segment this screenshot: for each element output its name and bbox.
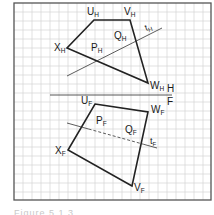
grid-paper [14,3,211,200]
grid-border [14,3,211,200]
label-x-h: XH [54,42,66,54]
svg-text:XH: XH [54,42,66,54]
fold-label-h: H [167,83,174,94]
svg-text:WF: WF [151,104,164,116]
diagram-canvas: H F UH VH WH XH PH QH tH UF WF VF XF PF … [0,0,214,215]
svg-text:UH: UH [87,6,99,18]
label-t-h: tH [143,21,153,34]
svg-text:VH: VH [124,6,136,18]
top-view: UH VH WH XH PH QH tH [54,6,164,92]
front-view: UF WF VF XF PF QF tF [55,95,164,194]
svg-text:QF: QF [125,124,137,136]
label-q-h: QH [114,30,127,42]
label-v-h: VH [124,6,136,18]
svg-text:UF: UF [81,95,92,107]
label-u-h: UH [87,6,99,18]
top-view-quadrilateral [67,20,148,83]
svg-text:PH: PH [91,42,103,54]
svg-text:QH: QH [114,30,127,42]
line-t-f-left [67,123,89,129]
label-p-f: PF [96,115,107,127]
svg-text:PF: PF [96,115,107,127]
label-w-h: WH [150,80,164,92]
label-w-f: WF [151,104,164,116]
svg-text:tH: tH [143,21,153,34]
label-v-f: VF [134,182,145,194]
label-u-f: UF [81,95,92,107]
figure-caption: Figure 5.1.3 [14,206,74,215]
fold-label-f: F [167,96,173,107]
label-p-h: PH [91,42,103,54]
label-q-f: QF [125,124,137,136]
orthographic-projection-figure: H F UH VH WH XH PH QH tH UF WF VF XF PF … [0,0,214,215]
svg-text:VF: VF [134,182,145,194]
svg-text:WH: WH [150,80,164,92]
